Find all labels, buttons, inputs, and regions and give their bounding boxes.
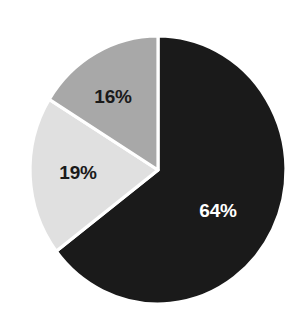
- pie-chart-figure: 64%19%16%: [0, 0, 307, 325]
- pie-slice-label-16: 16%: [94, 86, 132, 107]
- pie-slice-label-19: 19%: [59, 162, 97, 183]
- pie-slice-label-64: 64%: [199, 200, 237, 221]
- pie-chart-canvas: 64%19%16%: [0, 0, 307, 325]
